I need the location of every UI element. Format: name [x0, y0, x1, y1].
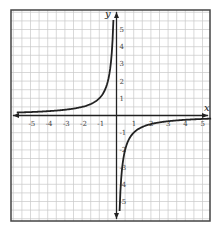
- svg-text:4: 4: [120, 43, 125, 51]
- svg-text:-5: -5: [29, 120, 36, 128]
- svg-text:1: 1: [120, 95, 124, 103]
- svg-text:5: 5: [201, 120, 205, 128]
- y-axis-label: y: [104, 8, 111, 19]
- svg-text:-2: -2: [80, 120, 87, 128]
- svg-text:-3: -3: [63, 120, 70, 128]
- svg-text:-1: -1: [120, 129, 127, 137]
- axes: [13, 12, 208, 219]
- svg-text:-4: -4: [46, 120, 53, 128]
- svg-text:1: 1: [132, 120, 136, 128]
- svg-text:-1: -1: [97, 120, 104, 128]
- x-axis-label: x: [204, 102, 210, 113]
- svg-text:2: 2: [120, 78, 124, 86]
- svg-text:5: 5: [120, 26, 124, 34]
- svg-text:3: 3: [120, 60, 124, 68]
- function-graph: -5-4-3-2-11234554321-1-2-3-4-5 x y: [0, 0, 219, 227]
